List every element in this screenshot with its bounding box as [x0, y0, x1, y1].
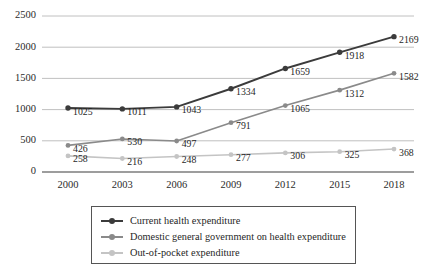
- data-point-marker[interactable]: [174, 104, 179, 109]
- data-point-label: 325: [345, 149, 360, 160]
- data-point-label: 277: [236, 152, 251, 163]
- y-axis-tick-label: 1500: [15, 72, 36, 83]
- y-axis-tick-label: 0: [31, 165, 36, 176]
- legend-item-label: Out-of-pocket expenditure: [130, 247, 240, 259]
- data-point-label: 530: [127, 136, 142, 147]
- legend-dot-2: [109, 250, 115, 256]
- data-point-marker[interactable]: [66, 143, 71, 148]
- legend-item-current-health-expenditure[interactable]: Current health expenditure: [92, 213, 355, 229]
- legend-dot-0: [109, 218, 115, 224]
- data-point-marker[interactable]: [283, 103, 288, 108]
- data-point-label: 1065: [290, 103, 310, 114]
- data-point-label: 306: [290, 150, 305, 161]
- data-point-marker[interactable]: [337, 88, 342, 93]
- data-point-label: 497: [182, 138, 197, 149]
- data-point-marker[interactable]: [174, 139, 179, 144]
- legend-item-domestic-general-government[interactable]: Domestic general government on health ex…: [92, 229, 355, 245]
- x-axis-tick-label: 2012: [275, 179, 296, 190]
- data-point-marker[interactable]: [65, 105, 70, 110]
- line-chart: 0500100015002000250020002003200620092012…: [0, 0, 425, 272]
- data-point-label: 2169: [399, 34, 419, 45]
- data-point-marker[interactable]: [120, 156, 125, 161]
- data-point-label: 258: [73, 153, 88, 164]
- data-point-label: 248: [182, 154, 197, 165]
- legend-dot-1: [109, 234, 115, 240]
- y-axis-tick-label: 2500: [15, 9, 36, 20]
- data-point-label: 1918: [345, 50, 365, 61]
- x-axis-tick-label: 2006: [166, 179, 187, 190]
- x-axis-tick-label: 2000: [58, 179, 79, 190]
- data-point-marker[interactable]: [391, 34, 396, 39]
- x-axis-tick-label: 2015: [329, 179, 350, 190]
- data-point-label: 368: [399, 147, 414, 158]
- data-point-label: 1334: [236, 86, 256, 97]
- data-point-marker[interactable]: [174, 154, 179, 159]
- data-point-marker[interactable]: [120, 137, 125, 142]
- x-axis-tick-label: 2003: [112, 179, 133, 190]
- legend-line-marker-icon: [101, 216, 123, 226]
- legend-line-marker-icon: [101, 248, 123, 258]
- data-point-label: 216: [127, 156, 142, 167]
- data-point-marker[interactable]: [229, 152, 234, 157]
- y-axis-tick-label: 2000: [15, 41, 36, 52]
- data-point-label: 1025: [73, 106, 93, 117]
- data-point-marker[interactable]: [392, 71, 397, 76]
- data-point-label: 1312: [345, 88, 365, 99]
- data-point-label: 1011: [127, 106, 146, 117]
- legend-item-label: Current health expenditure: [130, 215, 240, 227]
- data-point-label: 426: [73, 143, 88, 154]
- data-point-label: 1582: [399, 71, 419, 82]
- data-point-marker[interactable]: [283, 66, 288, 71]
- data-point-marker[interactable]: [66, 154, 71, 159]
- data-point-marker[interactable]: [228, 86, 233, 91]
- data-point-marker[interactable]: [392, 147, 397, 152]
- data-point-label: 791: [236, 120, 251, 131]
- x-axis-tick-label: 2009: [221, 179, 242, 190]
- data-point-marker[interactable]: [283, 151, 288, 156]
- y-axis-tick-label: 1000: [15, 103, 36, 114]
- x-axis-tick-label: 2018: [384, 179, 405, 190]
- legend-line-marker-icon: [101, 232, 123, 242]
- legend-item-label: Domestic general government on health ex…: [130, 231, 346, 243]
- data-point-marker[interactable]: [337, 50, 342, 55]
- data-point-marker[interactable]: [337, 149, 342, 154]
- data-point-marker[interactable]: [229, 120, 234, 125]
- data-point-label: 1659: [290, 66, 310, 77]
- data-point-marker[interactable]: [120, 106, 125, 111]
- legend-item-out-of-pocket-expenditure[interactable]: Out-of-pocket expenditure: [92, 245, 355, 261]
- y-axis-tick-label: 500: [20, 134, 36, 145]
- data-point-label: 1043: [182, 104, 202, 115]
- chart-legend: Current health expenditure Domestic gene…: [91, 206, 356, 264]
